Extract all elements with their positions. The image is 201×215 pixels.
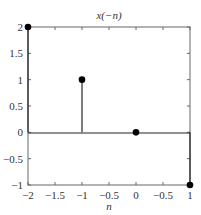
y-tick-label: 1 <box>18 74 24 86</box>
y-tick-label: 0 <box>18 126 24 138</box>
x-axis-label: n <box>106 200 112 212</box>
x-tick-label: −1.5 <box>45 189 65 201</box>
stem-series <box>25 24 194 189</box>
x-tick-label: 0 <box>133 189 139 201</box>
x-tick-label: −1 <box>76 189 88 201</box>
x-tick-label: −0.5 <box>153 189 173 201</box>
plot-area <box>28 27 190 185</box>
y-tick-label: −0.5 <box>3 153 23 165</box>
x-tick-label: 1 <box>187 189 193 201</box>
x-axis-ticks: −2−1.5−1−0.50−0.51 <box>22 27 193 201</box>
y-tick-label: 0.5 <box>9 100 23 112</box>
y-axis-ticks: 21.510.50−0.5−1 <box>3 21 190 191</box>
stem-marker <box>133 129 140 136</box>
chart-title: x(−n) <box>95 9 121 22</box>
y-tick-label: 2 <box>18 21 24 33</box>
stem-marker <box>25 24 32 31</box>
y-tick-label: 1.5 <box>9 47 23 59</box>
stem-plot: x(−n) 21.510.50−0.5−1 −2−1.5−1−0.50−0.51… <box>0 0 201 215</box>
stem-marker <box>187 182 194 189</box>
x-tick-label: −2 <box>22 189 34 201</box>
stem-marker <box>79 76 86 83</box>
